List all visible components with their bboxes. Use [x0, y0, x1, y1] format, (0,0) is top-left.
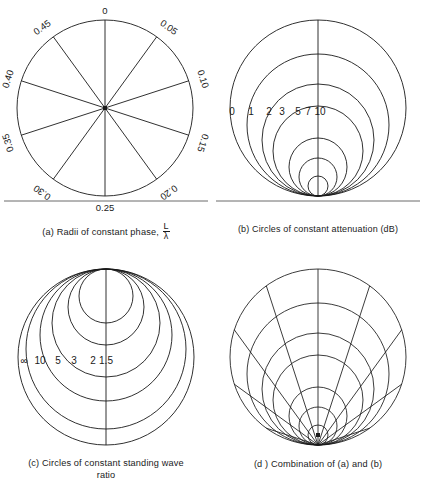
- swr-label-3: 3: [71, 355, 77, 366]
- panel-a-caption: (a) Radii of constant phase, L λ: [0, 222, 212, 241]
- attenuation-label-0: 0: [229, 106, 235, 117]
- panel-b-caption-prefix: (b): [238, 224, 249, 234]
- phase-label-0.40: 0.40: [0, 68, 16, 89]
- attenuation-label-10: 10: [314, 106, 326, 117]
- panel-c-circles-of-constant-standing-wave-ratio: ∞ 10 5 3 2 1.5 (c) Circles of constant s…: [0, 249, 212, 497]
- panel-c-diagram: ∞ 10 5 3 2 1.5: [0, 249, 212, 454]
- radius-line-0.20: [318, 428, 370, 445]
- swr-label-5: 5: [55, 355, 61, 366]
- panel-a-caption-text: Radii of constant phase,: [57, 227, 159, 237]
- phase-label-0.15: 0.15: [195, 133, 211, 154]
- radius-line-0.35: [234, 384, 318, 445]
- panel-c-caption-text: Circles of constant standing wave: [42, 458, 184, 468]
- panel-d-diagram: [212, 249, 424, 454]
- swr-label-1.5: 1.5: [99, 355, 113, 366]
- panel-c-caption: (c) Circles of constant standing wave ra…: [0, 458, 212, 481]
- attenuation-label-5: 5: [295, 106, 301, 117]
- attenuation-label-3: 3: [279, 106, 285, 117]
- panel-a-caption-prefix: (a): [42, 227, 54, 237]
- panel-b-circles-of-constant-attenuation: 0 1 2 3 5 7 10 (b) Circles of constant a…: [212, 0, 424, 248]
- panel-d-combination-of-a-and-b: (d ) Combination of (a) and (b): [212, 249, 424, 497]
- panel-a-diagram: 0 0.05 0.10 0.15 0.20 0.25 0.30 0.35 0.4…: [0, 0, 212, 215]
- panel-b-diagram: 0 1 2 3 5 7 10: [212, 0, 424, 215]
- swr-label-infinity: ∞: [20, 355, 27, 366]
- panel-d-caption-prefix: (d ): [254, 459, 268, 469]
- center-point: [103, 106, 107, 110]
- phase-label-0.35: 0.35: [0, 133, 16, 154]
- phase-label-0.20: 0.20: [158, 183, 179, 203]
- phase-label-0.10: 0.10: [195, 68, 211, 89]
- phase-label-0: 0: [102, 5, 107, 16]
- attenuation-label-2: 2: [266, 106, 272, 117]
- panel-c-caption-text-line2: ratio: [97, 470, 116, 480]
- radius-line-0.40: [234, 330, 318, 445]
- panel-b-caption-text: Circles of constant attenuation (dB): [252, 224, 398, 234]
- radius-line-0.45: [266, 286, 318, 445]
- panel-a-caption-fraction: L λ: [163, 222, 170, 241]
- phase-label-0.05: 0.05: [158, 17, 179, 37]
- panel-a-radii-of-constant-phase: 0 0.05 0.10 0.15 0.20 0.25 0.30 0.35 0.4…: [0, 0, 212, 248]
- swr-label-2: 2: [90, 355, 96, 366]
- attenuation-label-1: 1: [248, 106, 254, 117]
- radius-line-0.05: [318, 286, 370, 445]
- figure-transmission-line-charts: 0 0.05 0.10 0.15 0.20 0.25 0.30 0.35 0.4…: [0, 0, 424, 497]
- phase-label-0.30: 0.30: [31, 183, 52, 203]
- radius-line-0.30: [266, 428, 318, 445]
- panel-b-caption: (b) Circles of constant attenuation (dB): [212, 224, 424, 236]
- radius-line-0.10: [318, 330, 402, 445]
- panel-c-caption-prefix: (c): [28, 458, 39, 468]
- attenuation-label-7: 7: [305, 106, 311, 117]
- phase-label-0.45: 0.45: [31, 17, 52, 37]
- swr-label-10: 10: [34, 355, 46, 366]
- phase-label-0.25: 0.25: [96, 202, 115, 213]
- panel-d-caption-text: Combination of (a) and (b): [271, 459, 382, 469]
- fraction-denominator: λ: [163, 232, 170, 241]
- panel-d-caption: (d ) Combination of (a) and (b): [212, 459, 424, 471]
- center-point: [316, 433, 320, 437]
- radius-line-0.15: [318, 384, 402, 445]
